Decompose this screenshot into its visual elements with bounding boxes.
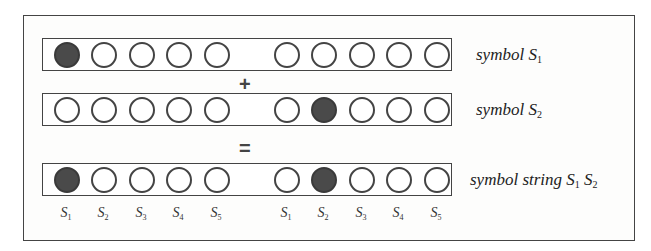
- filled-circle-icon: [311, 167, 337, 193]
- position-label: S2: [98, 205, 109, 222]
- empty-circle-icon: [204, 167, 230, 193]
- label-text: symbol S: [476, 100, 537, 119]
- position-label: S5: [211, 205, 222, 222]
- empty-circle-icon: [386, 167, 412, 193]
- label-symbol-string: symbol string S1 S2: [470, 170, 598, 190]
- empty-circle-icon: [274, 97, 300, 123]
- empty-circle-icon: [54, 97, 80, 123]
- empty-circle-icon: [349, 42, 375, 68]
- label-text: symbol string S: [470, 170, 575, 189]
- empty-circle-icon: [204, 42, 230, 68]
- empty-circle-icon: [91, 42, 117, 68]
- empty-circle-icon: [91, 97, 117, 123]
- plus-operator: +: [239, 74, 251, 94]
- filled-circle-icon: [54, 167, 80, 193]
- row-symbol-string-s1s2: [42, 163, 452, 196]
- position-label: S1: [61, 205, 72, 222]
- position-label: S4: [393, 205, 404, 222]
- empty-circle-icon: [166, 167, 192, 193]
- position-label: S5: [431, 205, 442, 222]
- label-symbol-s2: symbol S2: [476, 100, 542, 120]
- filled-circle-icon: [54, 42, 80, 68]
- label-text: symbol S: [476, 45, 537, 64]
- empty-circle-icon: [349, 97, 375, 123]
- filled-circle-icon: [311, 97, 337, 123]
- empty-circle-icon: [204, 97, 230, 123]
- row-symbol-s2: [42, 93, 452, 126]
- equals-operator: =: [239, 138, 251, 158]
- empty-circle-icon: [129, 97, 155, 123]
- label-subscript: 1: [537, 54, 542, 65]
- empty-circle-icon: [166, 42, 192, 68]
- empty-circle-icon: [311, 42, 337, 68]
- empty-circle-icon: [274, 42, 300, 68]
- empty-circle-icon: [129, 167, 155, 193]
- empty-circle-icon: [129, 42, 155, 68]
- label-subscript-2: 2: [593, 179, 598, 190]
- empty-circle-icon: [424, 167, 450, 193]
- empty-circle-icon: [386, 97, 412, 123]
- empty-circle-icon: [349, 167, 375, 193]
- label-text-2: S: [580, 170, 593, 189]
- empty-circle-icon: [274, 167, 300, 193]
- position-label: S4: [173, 205, 184, 222]
- empty-circle-icon: [91, 167, 117, 193]
- empty-circle-icon: [386, 42, 412, 68]
- position-label: S3: [136, 205, 147, 222]
- row-symbol-s1: [42, 38, 452, 71]
- empty-circle-icon: [424, 97, 450, 123]
- position-label: S2: [318, 205, 329, 222]
- position-label: S3: [356, 205, 367, 222]
- empty-circle-icon: [424, 42, 450, 68]
- empty-circle-icon: [166, 97, 192, 123]
- label-symbol-s1: symbol S1: [476, 45, 542, 65]
- position-label: S1: [281, 205, 292, 222]
- label-subscript: 2: [537, 109, 542, 120]
